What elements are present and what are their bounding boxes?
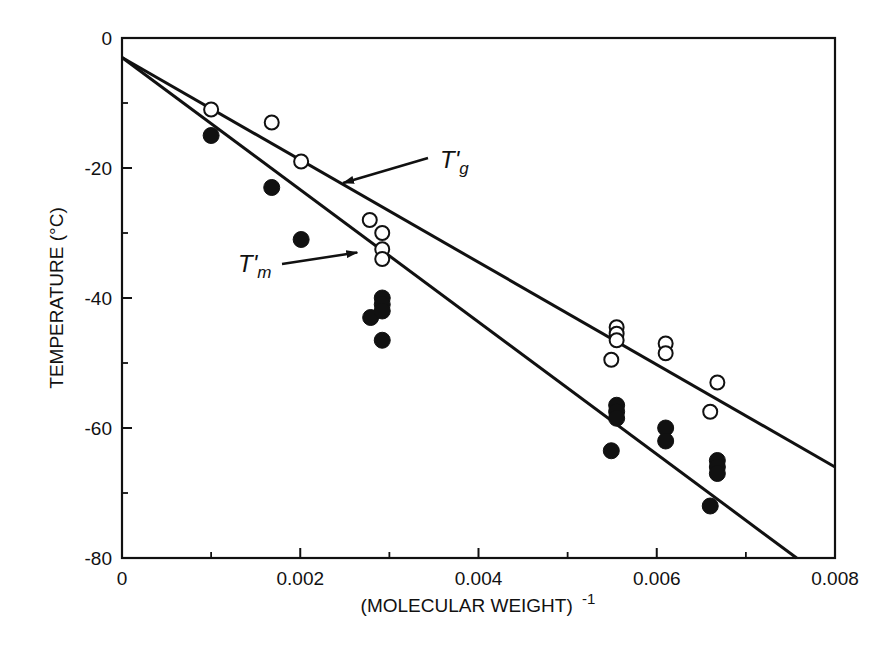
- data-point-tm: [603, 443, 619, 459]
- data-point-tg: [659, 346, 673, 360]
- annotation-label-tm: T'm: [238, 250, 271, 282]
- data-point-tg: [204, 103, 218, 117]
- scatter-chart: 00.0020.0040.0060.008 0-20-40-60-80 T'gT…: [0, 0, 881, 653]
- y-axis: 0-20-40-60-80: [85, 28, 132, 569]
- data-point-tg: [375, 226, 389, 240]
- data-point-tg: [363, 213, 377, 227]
- data-point-tm: [374, 332, 390, 348]
- data-point-tm: [293, 232, 309, 248]
- fit-line-tg: [122, 58, 835, 468]
- data-point-tg: [703, 405, 717, 419]
- annotation-arrow: [282, 253, 357, 265]
- x-tick-label: 0.002: [276, 568, 324, 589]
- x-tick-label: 0.004: [455, 568, 503, 589]
- data-point-tg: [610, 333, 624, 347]
- annotations: T'gT'm: [238, 146, 469, 282]
- data-point-tg: [265, 116, 279, 130]
- data-point-tm: [658, 433, 674, 449]
- x-tick-label: 0: [117, 568, 128, 589]
- x-tick-label: 0.006: [633, 568, 681, 589]
- annotation-arrow: [343, 158, 428, 183]
- y-tick-label: -80: [85, 548, 112, 569]
- y-tick-label: -20: [85, 158, 112, 179]
- x-axis-title: (MOLECULAR WEIGHT) -1: [361, 590, 596, 616]
- data-point-tg: [375, 252, 389, 266]
- x-axis-title-text: (MOLECULAR WEIGHT): [361, 595, 573, 616]
- data-point-tm: [609, 410, 625, 426]
- y-tick-label: -40: [85, 288, 112, 309]
- data-point-tm: [702, 498, 718, 514]
- data-point-tm: [709, 466, 725, 482]
- data-point-tg: [604, 353, 618, 367]
- data-point-tm: [374, 303, 390, 319]
- x-axis-title-superscript: -1: [582, 590, 595, 607]
- data-point-tg: [710, 376, 724, 390]
- data-point-tg: [294, 155, 308, 169]
- y-tick-label: 0: [101, 28, 112, 49]
- y-tick-label: -60: [85, 418, 112, 439]
- x-tick-label: 0.008: [811, 568, 859, 589]
- data-point-tm: [203, 128, 219, 144]
- fit-lines: [122, 58, 835, 559]
- plot-frame: [122, 38, 835, 558]
- fit-line-tm: [122, 58, 797, 559]
- data-point-tm: [264, 180, 280, 196]
- y-axis-title: TEMPERATURE (°C): [46, 207, 67, 388]
- x-axis: 00.0020.0040.0060.008: [117, 548, 859, 589]
- plot-border: [122, 38, 835, 558]
- annotation-label-tg: T'g: [440, 146, 469, 178]
